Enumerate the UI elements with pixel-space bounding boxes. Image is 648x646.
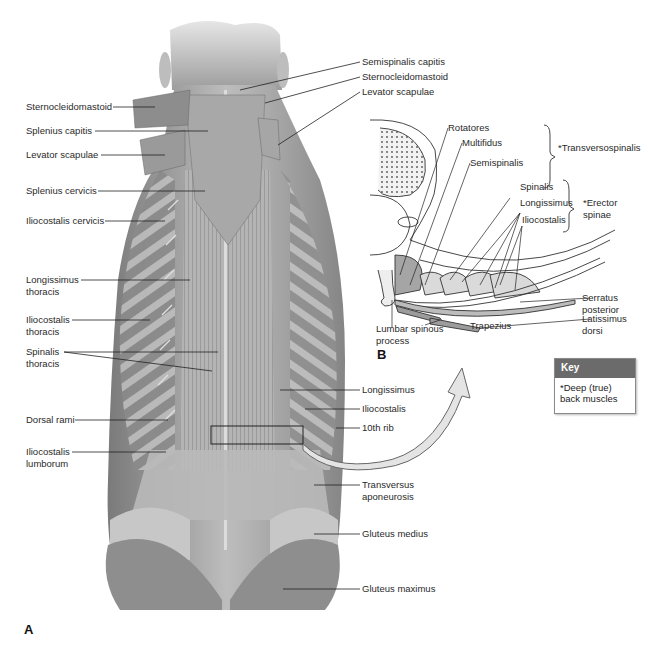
label-longissimus: Longissimus bbox=[362, 384, 415, 396]
head bbox=[170, 21, 282, 90]
label-gluteus-medius: Gluteus medius bbox=[362, 528, 428, 540]
right-ear bbox=[277, 52, 289, 88]
label-iliocostalis-b: Iliocostalis bbox=[522, 214, 566, 226]
label-transversus-aponeurosis: Transversus aponeurosis bbox=[362, 479, 422, 503]
key-title: Key bbox=[555, 359, 635, 378]
label-transversospinalis-group: *Transversospinalis bbox=[558, 142, 641, 154]
panel-b-letter: B bbox=[377, 347, 386, 362]
label-semispinalis: Semispinalis bbox=[470, 157, 523, 169]
label-10th-rib: 10th rib bbox=[362, 422, 394, 434]
label-trapezius: Trapezius bbox=[470, 320, 511, 332]
label-iliocostalis-cervicis: Iliocostalis cervicis bbox=[26, 215, 104, 227]
label-semispinalis-capitis: Semispinalis capitis bbox=[362, 56, 445, 68]
label-longissimus-thoracis: Longissimus thoracis bbox=[26, 274, 86, 298]
label-splenius-capitis: Splenius capitis bbox=[26, 125, 92, 137]
panel-a-letter: A bbox=[24, 622, 33, 637]
label-sternocleidomastoid-left: Sternocleidomastoid bbox=[26, 101, 112, 113]
label-splenius-cervicis: Splenius cervicis bbox=[26, 185, 97, 197]
label-levator-scapulae-right: Levator scapulae bbox=[362, 86, 434, 98]
label-iliocostalis-lumborum: Iliocostalis lumborum bbox=[26, 446, 76, 470]
label-rotatores: Rotatores bbox=[448, 122, 489, 134]
label-sternocleidomastoid-right: Sternocleidomastoid bbox=[362, 71, 448, 83]
back-muscles-illustration bbox=[0, 0, 648, 646]
label-erector-spinae-group: *Erector spinae bbox=[583, 197, 623, 221]
label-spinalis-thoracis: Spinalis thoracis bbox=[26, 346, 66, 370]
label-multifidus: Multifidus bbox=[462, 137, 502, 149]
label-lumbar-spinous-process: Lumbar spinous process bbox=[376, 323, 456, 347]
label-gluteus-maximus: Gluteus maximus bbox=[362, 583, 435, 595]
key-text: *Deep (true) back muscles bbox=[555, 378, 635, 408]
key-box: Key *Deep (true) back muscles bbox=[554, 358, 636, 414]
sternocleidomastoid-left bbox=[133, 90, 190, 128]
label-iliocostalis-thoracis: Iliocostalis thoracis bbox=[26, 314, 74, 338]
label-longissimus-b: Longissimus bbox=[520, 197, 573, 209]
label-spinalis: Spinalis bbox=[520, 181, 553, 193]
label-dorsal-rami: Dorsal rami bbox=[26, 414, 75, 426]
label-latissimus-dorsi: Latissimus dorsi bbox=[582, 313, 632, 337]
label-iliocostalis: Iliocostalis bbox=[362, 403, 406, 415]
label-levator-scapulae-left: Levator scapulae bbox=[26, 149, 98, 161]
left-ear bbox=[159, 52, 171, 88]
